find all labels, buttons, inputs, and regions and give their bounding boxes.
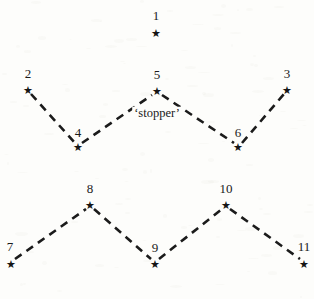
node-label-4: 4: [75, 126, 82, 139]
node-label-6: 6: [235, 126, 242, 139]
node-star-2: ★: [23, 85, 33, 96]
edge-7-8: [15, 209, 86, 259]
node-star-4: ★: [73, 142, 83, 153]
node-star-10: ★: [221, 200, 231, 211]
node-label-7: 7: [7, 240, 14, 253]
edge-9-10: [159, 209, 222, 259]
node-star-3: ★: [282, 85, 292, 96]
node-label-10: 10: [220, 182, 233, 195]
edge-8-9: [94, 209, 151, 259]
node-label-3: 3: [284, 67, 291, 80]
node-label-2: 2: [25, 67, 32, 80]
node-star-1: ★: [151, 28, 161, 39]
node-star-9: ★: [150, 259, 160, 270]
node-star-6: ★: [233, 142, 243, 153]
node-star-8: ★: [85, 200, 95, 211]
node-label-9: 9: [152, 241, 159, 254]
edge-2-4: [31, 94, 75, 143]
diagram-canvas: 1★2★5★3★4★6★8★10★7★9★11★ ‘stopper’: [0, 0, 314, 299]
node-label-8: 8: [87, 182, 94, 195]
stopper-annotation: ‘stopper’: [132, 107, 182, 120]
edge-6-3: [242, 94, 284, 143]
node-label-11: 11: [298, 240, 311, 253]
edge-10-11: [230, 209, 300, 259]
node-star-11: ★: [299, 259, 309, 270]
node-label-5: 5: [154, 68, 161, 81]
node-star-7: ★: [6, 259, 16, 270]
node-label-1: 1: [153, 9, 160, 22]
node-star-5: ★: [152, 86, 162, 97]
